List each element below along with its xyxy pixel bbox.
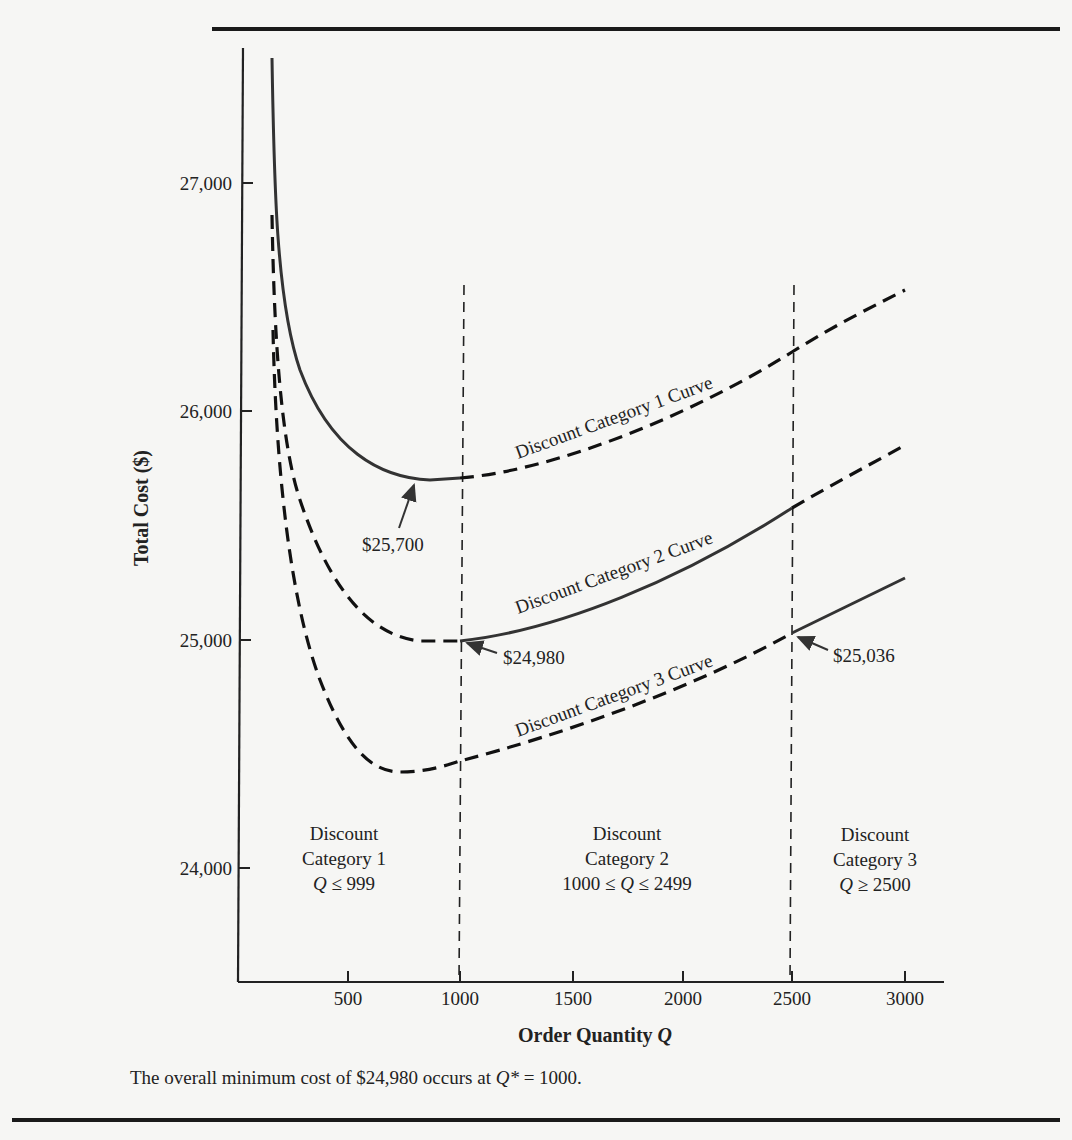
footer-rule [12,1118,1060,1122]
x-tick-label: 1500 [554,988,592,1009]
annotation-arrow-25036 [798,637,828,650]
y-tick-label: 25,000 [180,630,232,651]
region-label-category-2: Discount Category 2 1000 ≤ Q ≤ 2499 [562,823,692,894]
svg-text:Q ≤ 999: Q ≤ 999 [313,873,375,894]
caption-suffix: = 1000. [519,1067,582,1088]
annotation-arrow-25700 [399,485,414,528]
region-label-category-1: Discount Category 1 Q ≤ 999 [302,823,386,894]
svg-text:Discount: Discount [841,824,910,845]
x-tick-label: 1000 [441,988,479,1009]
svg-text:Category 3: Category 3 [833,849,917,870]
svg-text:Category 1: Category 1 [302,848,386,869]
annotation-24980: $24,980 [503,647,565,668]
caption-prefix: The overall minimum cost of $24,980 occu… [130,1067,496,1088]
region-label-category-3: Discount Category 3 Q ≥ 2500 [833,824,917,895]
curve-category-1-solid [272,58,460,480]
annotation-arrow-24980 [467,643,497,653]
x-tick-label: 3000 [886,988,924,1009]
svg-text:Discount: Discount [593,823,662,844]
svg-text:Discount: Discount [310,823,379,844]
figure-caption: The overall minimum cost of $24,980 occu… [130,1067,582,1089]
svg-text:Category 2: Category 2 [585,848,669,869]
x-ticks: 500 1000 1500 2000 2500 3000 [334,971,924,1009]
y-tick-label: 24,000 [180,858,232,879]
curve-label-category-1: Discount Category 1 Curve [512,372,715,463]
y-tick-label: 27,000 [180,173,232,194]
y-axis [238,48,243,982]
x-tick-label: 2500 [773,988,811,1009]
x-tick-label: 2000 [664,988,702,1009]
x-axis-title: Order Quantity Q [518,1024,672,1047]
y-axis-title: Total Cost ($) [130,450,153,566]
x-tick-label: 500 [334,988,363,1009]
y-tick-label: 26,000 [180,401,232,422]
svg-text:Q ≥ 2500: Q ≥ 2500 [839,874,911,895]
annotation-25036: $25,036 [833,645,895,666]
curve-category-2-dashed-left [272,215,460,641]
curve-category-3-solid [792,578,905,633]
curve-label-category-2: Discount Category 2 Curve [512,527,715,618]
curve-category-2-dashed-right [792,445,905,508]
annotation-25700: $25,700 [362,534,424,555]
caption-q-symbol: Q* [496,1067,519,1088]
boundary-q1000 [459,285,464,982]
svg-text:1000 ≤ Q ≤ 2499: 1000 ≤ Q ≤ 2499 [562,873,692,894]
total-cost-chart: 27,000 26,000 25,000 24,000 500 1000 150… [0,0,1072,1140]
